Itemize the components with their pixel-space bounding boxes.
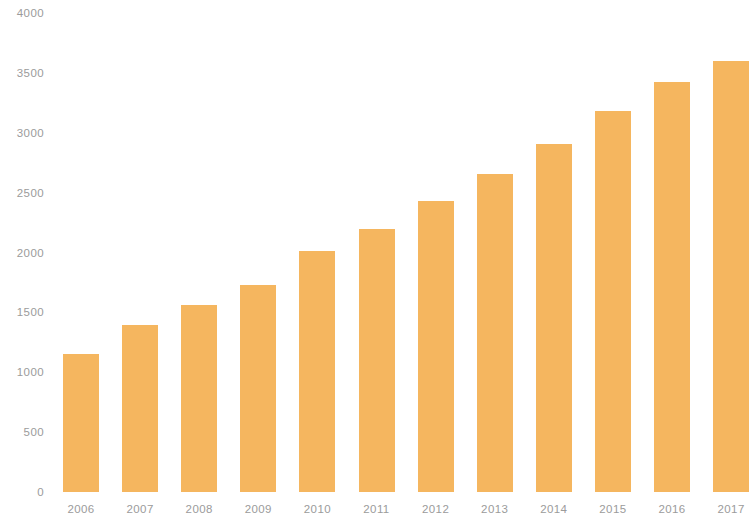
bar: [418, 201, 454, 492]
x-axis-tick-label: 2010: [304, 503, 331, 515]
bar: [536, 144, 572, 492]
x-axis-tick-label: 2016: [658, 503, 685, 515]
bar-chart: 05001000150020002500300035004000 2006200…: [0, 0, 751, 522]
x-axis-tick-label: 2015: [599, 503, 626, 515]
x-axis-tick-label: 2007: [127, 503, 154, 515]
bar: [713, 61, 749, 492]
bar: [595, 111, 631, 492]
bar: [240, 285, 276, 492]
x-axis-tick-label: 2014: [540, 503, 567, 515]
x-axis-tick-label: 2011: [363, 503, 389, 515]
x-axis-tick-label: 2013: [481, 503, 508, 515]
x-axis-tick-label: 2008: [186, 503, 213, 515]
x-axis-tick-label: 2012: [422, 503, 449, 515]
plot-area: 2006200720082009201020112012201320142015…: [0, 0, 751, 522]
x-axis-tick-label: 2006: [67, 503, 94, 515]
bar: [299, 251, 335, 492]
bar: [181, 305, 217, 492]
bar: [654, 82, 690, 492]
bar: [122, 325, 158, 492]
x-axis-tick-label: 2017: [718, 503, 745, 515]
bar: [359, 229, 395, 492]
x-axis-tick-label: 2009: [245, 503, 272, 515]
bar: [477, 174, 513, 492]
bar: [63, 354, 99, 492]
